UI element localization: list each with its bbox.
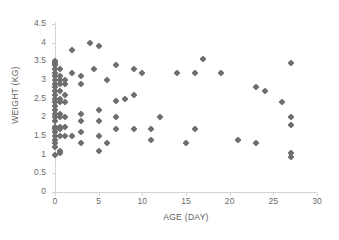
y-tick-label: 2 [20, 112, 46, 121]
plot-area: 00.511.522.533.544.5 051015202530 AGE (D… [0, 0, 339, 240]
data-point-marker [78, 140, 85, 147]
data-point-marker [287, 114, 294, 121]
data-point-marker [148, 125, 155, 132]
data-point-marker [200, 56, 207, 63]
data-point-marker [156, 114, 163, 121]
y-tick-mark [52, 43, 55, 44]
data-point-marker [279, 99, 286, 106]
y-tick-label: 2.5 [20, 94, 46, 103]
data-point-marker [252, 84, 259, 91]
data-point-marker [113, 97, 120, 104]
data-point-marker [252, 140, 259, 147]
data-point-marker [69, 69, 76, 76]
y-tick-mark [52, 24, 55, 25]
data-point-marker [57, 65, 64, 72]
data-point-marker [95, 43, 102, 50]
data-point-marker [78, 118, 85, 125]
y-tick-label: 1 [20, 150, 46, 159]
data-point-marker [95, 132, 102, 139]
y-tick-mark [52, 173, 55, 174]
y-tick-label: 4.5 [20, 19, 46, 28]
y-tick-label: 4 [20, 38, 46, 47]
data-point-marker [62, 91, 69, 98]
y-tick-label: 1.5 [20, 131, 46, 140]
data-point-marker [69, 47, 76, 54]
data-point-marker [174, 69, 181, 76]
x-tick-label: 25 [258, 197, 288, 206]
data-point-marker [121, 95, 128, 102]
data-point-marker [130, 91, 137, 98]
y-tick-label: 3.5 [20, 56, 46, 65]
data-point-marker [62, 123, 69, 130]
data-point-marker [139, 69, 146, 76]
data-point-marker [78, 129, 85, 136]
x-tick-label: 20 [215, 197, 245, 206]
data-point-marker [86, 39, 93, 46]
data-point-marker [217, 69, 224, 76]
data-point-marker [130, 125, 137, 132]
data-point-marker [287, 121, 294, 128]
data-point-marker [78, 110, 85, 117]
scatter-chart: 00.511.522.533.544.5 051015202530 AGE (D… [0, 0, 339, 240]
y-tick-label: 0 [20, 187, 46, 196]
x-tick-label: 30 [302, 197, 332, 206]
data-point-marker [148, 136, 155, 143]
x-axis-title: AGE (DAY) [55, 212, 317, 222]
data-point-marker [235, 136, 242, 143]
data-point-marker [287, 60, 294, 67]
data-point-marker [95, 147, 102, 154]
data-point-marker [95, 118, 102, 125]
data-point-marker [191, 125, 198, 132]
data-point-marker [113, 62, 120, 69]
data-point-marker [62, 114, 69, 121]
data-point-marker [69, 132, 76, 139]
data-point-marker [78, 73, 85, 80]
data-point-marker [191, 69, 198, 76]
data-point-marker [104, 76, 111, 83]
data-point-marker [261, 88, 268, 95]
data-point-marker [130, 65, 137, 72]
data-point-marker [91, 65, 98, 72]
data-point-marker [113, 125, 120, 132]
y-tick-label: 0.5 [20, 168, 46, 177]
data-point-marker [95, 106, 102, 113]
data-point-marker [78, 80, 85, 87]
y-tick-label: 3 [20, 75, 46, 84]
x-tick-label: 5 [84, 197, 114, 206]
x-tick-label: 10 [127, 197, 157, 206]
x-tick-label: 15 [171, 197, 201, 206]
data-point-marker [182, 140, 189, 147]
y-axis-title: WEIGHT (KG) [10, 50, 20, 140]
data-point-marker [62, 99, 69, 106]
data-point-marker [104, 140, 111, 147]
data-point-marker [113, 114, 120, 121]
x-tick-label: 0 [40, 197, 70, 206]
